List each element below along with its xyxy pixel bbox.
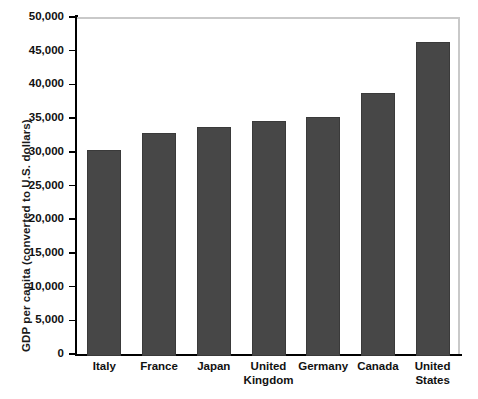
bar-chart-figure: GDP per capita (converted to U.S. dollar… [0, 0, 478, 399]
y-axis-tick-label: 0 [0, 347, 64, 359]
x-axis-tick-label: United States [395, 360, 471, 387]
y-axis-tick-label: 45,000 [0, 44, 64, 56]
bar [252, 121, 286, 356]
y-axis-tick-label: 30,000 [0, 145, 64, 157]
y-axis-tick-label: 50,000 [0, 10, 64, 22]
bar [416, 42, 450, 356]
y-axis-tick-label: 20,000 [0, 212, 64, 224]
bar [361, 93, 395, 356]
y-axis-tick-label: 35,000 [0, 111, 64, 123]
bar [306, 117, 340, 356]
y-axis-tick-label: 40,000 [0, 77, 64, 89]
y-axis-tick-label: 25,000 [0, 179, 64, 191]
y-axis-tick-label: 10,000 [0, 280, 64, 292]
y-axis-tick-label: 5,000 [0, 313, 64, 325]
y-axis-tick-label: 15,000 [0, 246, 64, 258]
bar [142, 133, 176, 356]
plot-area [77, 17, 460, 354]
bar [197, 127, 231, 356]
bar [87, 150, 121, 356]
